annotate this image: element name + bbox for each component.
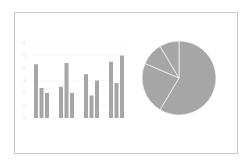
bars: [34, 56, 124, 119]
y-tick-label: 5: [23, 54, 25, 58]
chart-canvas: 0123456: [0, 0, 243, 162]
bar-4-2: [115, 83, 119, 118]
bar-1-3: [45, 93, 49, 118]
y-tick-label: 2: [23, 91, 25, 95]
y-tick-label: 0: [23, 116, 25, 120]
y-tick-label: 6: [23, 41, 25, 45]
y-tick-label: 1: [23, 104, 25, 108]
bar-chart: 0123456: [23, 41, 128, 120]
pie-chart: [142, 41, 216, 115]
bar-3-2: [90, 96, 94, 119]
bar-3-3: [95, 81, 99, 119]
bar-4-1: [109, 62, 113, 118]
bar-2-1: [59, 87, 63, 118]
y-tick-label: 4: [23, 66, 25, 70]
bar-4-3: [120, 56, 124, 119]
y-axis-ticks: 0123456: [23, 41, 25, 120]
bar-3-1: [84, 74, 88, 118]
bar-1-1: [34, 64, 38, 118]
bar-1-2: [40, 88, 44, 118]
bar-2-3: [70, 93, 74, 118]
bar-2-2: [65, 63, 69, 118]
y-tick-label: 3: [23, 79, 25, 83]
